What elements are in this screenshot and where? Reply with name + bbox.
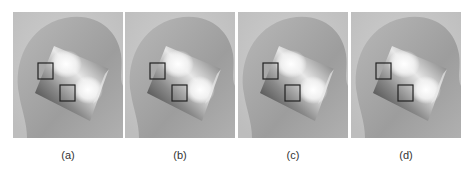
panel-caption-a: (a) [13,149,123,161]
panel-image-c [238,12,348,138]
panel-caption-d: (d) [351,149,461,161]
panel-image-b [125,12,235,138]
panel-caption-c: (c) [238,149,348,161]
head-render-image [125,12,235,138]
panel-image-d [351,12,461,138]
head-render-image [351,12,461,138]
head-render-image [13,12,123,138]
head-render-image [238,12,348,138]
panel-caption-b: (b) [125,149,235,161]
panel-image-a [13,12,123,138]
